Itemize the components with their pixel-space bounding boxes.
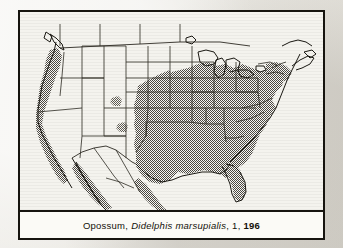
map-panel [20, 12, 323, 213]
scan-tint [20, 12, 323, 213]
caption-common-name: Opossum [83, 220, 125, 231]
caption-comma-3: , [238, 220, 241, 231]
caption-comma-2: , [226, 220, 229, 231]
figure-frame: Opossum,Didelphis marsupialis,1,196 [18, 10, 325, 240]
caption-scientific-name: Didelphis marsupialis [131, 220, 226, 231]
caption-panel: Opossum,Didelphis marsupialis,1,196 [20, 210, 323, 238]
scanned-page: Opossum,Didelphis marsupialis,1,196 [0, 0, 343, 248]
figure-caption: Opossum,Didelphis marsupialis,1,196 [83, 220, 260, 231]
caption-page: 196 [244, 220, 261, 231]
range-map [20, 12, 323, 213]
caption-comma-1: , [125, 220, 128, 231]
